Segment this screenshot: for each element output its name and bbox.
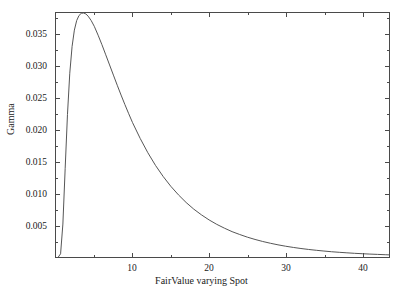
- x-axis-minor-tick: [171, 255, 172, 258]
- y-axis-minor-tick: [387, 82, 390, 83]
- y-axis-major-tick: [55, 162, 60, 163]
- y-axis-major-tick: [55, 194, 60, 195]
- y-axis-minor-tick: [387, 114, 390, 115]
- y-axis-tick-label: 0.015: [0, 157, 47, 167]
- y-axis-minor-tick: [387, 242, 390, 243]
- x-axis-minor-tick: [325, 255, 326, 258]
- x-axis-minor-tick: [325, 12, 326, 15]
- y-axis-title-wrapper: Gamma: [18, 0, 19, 296]
- x-axis-major-tick: [363, 12, 364, 17]
- x-axis-tick-label: 10: [127, 263, 137, 273]
- x-axis-major-tick: [132, 253, 133, 258]
- y-axis-major-tick: [385, 98, 390, 99]
- x-axis-major-tick: [132, 12, 133, 17]
- y-axis-minor-tick: [55, 210, 58, 211]
- x-axis-tick-label: 30: [281, 263, 291, 273]
- y-axis-minor-tick: [55, 114, 58, 115]
- y-axis-minor-tick: [55, 146, 58, 147]
- y-axis-major-tick: [55, 34, 60, 35]
- y-axis-minor-tick: [55, 242, 58, 243]
- y-axis-tick-label: 0.010: [0, 189, 47, 199]
- x-axis-major-tick: [209, 12, 210, 17]
- y-axis-minor-tick: [55, 82, 58, 83]
- y-axis-minor-tick: [387, 178, 390, 179]
- gamma-curve-svg: [56, 13, 389, 257]
- y-axis-minor-tick: [55, 18, 58, 19]
- x-axis-major-tick: [363, 253, 364, 258]
- x-axis-major-tick: [209, 253, 210, 258]
- x-axis-tick-label: 40: [358, 263, 368, 273]
- y-axis-major-tick: [385, 34, 390, 35]
- clipped-title-strip: [0, 0, 403, 7]
- y-axis-tick-label: 0.005: [0, 221, 47, 231]
- y-axis-minor-tick: [387, 18, 390, 19]
- x-axis-minor-tick: [94, 12, 95, 15]
- y-axis-major-tick: [55, 98, 60, 99]
- x-axis-minor-tick: [248, 12, 249, 15]
- chart-figure: Gamma 102030400.0050.0100.0150.0200.0250…: [0, 0, 403, 296]
- plot-area: [55, 12, 390, 258]
- x-axis-major-tick: [286, 253, 287, 258]
- y-axis-major-tick: [385, 226, 390, 227]
- y-axis-minor-tick: [387, 210, 390, 211]
- gamma-curve-line: [58, 13, 389, 257]
- x-axis-title: FairValue varying Spot: [0, 275, 403, 286]
- x-axis-minor-tick: [248, 255, 249, 258]
- x-axis-minor-tick: [94, 255, 95, 258]
- y-axis-major-tick: [55, 226, 60, 227]
- y-axis-tick-label: 0.035: [0, 29, 47, 39]
- x-axis-minor-tick: [171, 12, 172, 15]
- y-axis-major-tick: [385, 130, 390, 131]
- y-axis-major-tick: [55, 66, 60, 67]
- x-axis-major-tick: [286, 12, 287, 17]
- y-axis-tick-label: 0.025: [0, 93, 47, 103]
- y-axis-major-tick: [385, 194, 390, 195]
- y-axis-tick-label: 0.020: [0, 125, 47, 135]
- y-axis-major-tick: [385, 66, 390, 67]
- y-axis-tick-label: 0.030: [0, 61, 47, 71]
- y-axis-minor-tick: [387, 50, 390, 51]
- y-axis-minor-tick: [387, 146, 390, 147]
- y-axis-minor-tick: [55, 178, 58, 179]
- y-axis-major-tick: [385, 162, 390, 163]
- y-axis-minor-tick: [55, 50, 58, 51]
- y-axis-major-tick: [55, 130, 60, 131]
- x-axis-tick-label: 20: [204, 263, 214, 273]
